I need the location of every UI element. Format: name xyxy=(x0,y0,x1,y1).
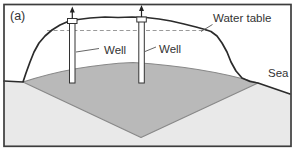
sea-label: Sea xyxy=(268,67,289,79)
well-right-pointer-line xyxy=(145,47,156,52)
well-right-cap xyxy=(137,17,147,22)
well-label-left: Well xyxy=(104,44,126,56)
well-right-tube xyxy=(139,22,145,84)
figure-panel: (a) Water table Well Well Sea xyxy=(0,0,295,156)
panel-label: (a) xyxy=(10,9,25,23)
well-label-right: Well xyxy=(159,43,181,55)
up-arrow-icon xyxy=(70,7,75,13)
island-cross-section-diagram: (a) Water table Well Well Sea xyxy=(0,0,295,156)
water-table-label: Water table xyxy=(213,12,271,24)
well-left-cap xyxy=(68,19,78,24)
up-arrow-icon xyxy=(139,5,144,11)
well-left-pointer-line xyxy=(76,49,99,53)
well-left-tube xyxy=(70,23,76,83)
